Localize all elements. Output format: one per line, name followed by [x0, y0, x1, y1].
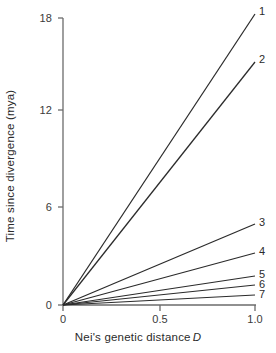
x-axis-title-symbol: D — [191, 331, 202, 343]
y-tick-label-18: 18 — [18, 12, 52, 24]
y-axis-title: Time since divergence (mya) — [4, 90, 16, 243]
series-line-2 — [63, 62, 255, 305]
series-line-5 — [63, 276, 255, 305]
series-label-7: 7 — [259, 288, 265, 300]
y-tick-label-0: 0 — [18, 299, 52, 311]
series-line-6 — [63, 285, 255, 305]
x-axis-title: Nei's genetic distanceD — [0, 331, 276, 343]
y-tick-label-6: 6 — [18, 201, 52, 213]
series-label-2: 2 — [259, 53, 265, 65]
x-tick-label-0: 0 — [60, 313, 66, 325]
series-label-3: 3 — [259, 216, 265, 228]
x-tick-label-1-0: 1.0 — [247, 313, 263, 325]
chart-figure: 18 12 6 0 0 0.5 1.0 1 2 3 4 5 6 7 Nei's … — [0, 0, 276, 353]
x-axis-title-text: Nei's genetic distance — [75, 331, 191, 343]
x-tick-label-0-5: 0.5 — [152, 313, 168, 325]
y-tick-label-12: 12 — [18, 104, 52, 116]
series-line-7 — [63, 295, 255, 305]
series-label-1: 1 — [259, 5, 265, 17]
series-label-4: 4 — [259, 245, 265, 257]
series-line-3 — [63, 224, 255, 305]
